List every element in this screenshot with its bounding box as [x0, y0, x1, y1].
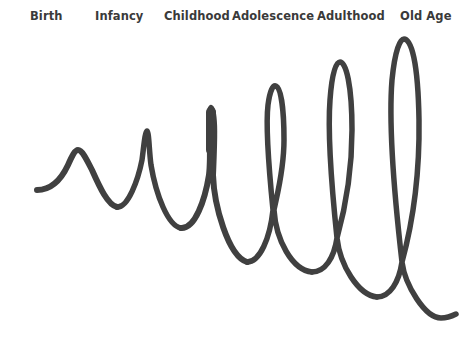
spiral-segment-birth	[37, 150, 117, 207]
developmental-spiral-graphic	[0, 0, 468, 337]
spiral-segment-adulthood	[312, 62, 377, 297]
spiral-segment-old-age	[377, 39, 456, 318]
spiral-segment-adolescence	[247, 86, 312, 272]
spiral-segment-infancy	[117, 131, 181, 228]
